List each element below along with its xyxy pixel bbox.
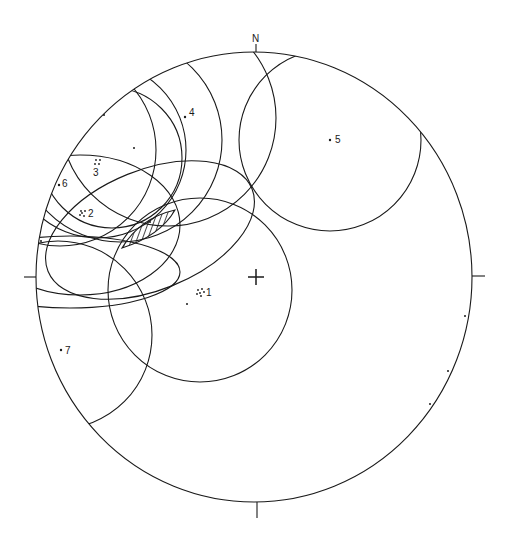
dot	[103, 114, 105, 116]
point-4-label: 4	[189, 107, 195, 118]
dot	[464, 315, 466, 317]
dot	[186, 303, 188, 305]
dot	[133, 147, 135, 149]
point-2-label: 2	[88, 208, 94, 219]
dot	[149, 221, 151, 223]
point-7	[60, 349, 62, 351]
point-7-label: 7	[65, 345, 71, 356]
north-label: N	[252, 33, 259, 44]
cone-circle-b	[18, 38, 222, 242]
point-1-label: 1	[206, 287, 212, 298]
point-1	[196, 288, 205, 297]
dot	[447, 370, 449, 372]
point-2	[79, 210, 86, 217]
point-3-label: 3	[93, 167, 99, 178]
cone-circle-d	[0, 54, 156, 246]
cone-circle-c	[10, 62, 186, 238]
cone-circle-7	[0, 241, 152, 429]
dot	[40, 240, 42, 242]
cone-circle-a	[60, 10, 276, 226]
point-4	[184, 116, 186, 118]
point-5-label: 5	[335, 134, 341, 145]
point-5	[329, 139, 331, 141]
cone-circles	[0, 10, 421, 429]
cone-circle-1	[108, 198, 292, 382]
center-cross-icon	[248, 269, 264, 285]
dot	[429, 403, 431, 405]
stereonet-diagram: N 1 2	[0, 0, 507, 546]
point-6	[58, 184, 60, 186]
data-points: 1 2 3 4 5 6 7	[40, 107, 466, 405]
point-3	[94, 159, 101, 165]
point-6-label: 6	[62, 178, 68, 189]
